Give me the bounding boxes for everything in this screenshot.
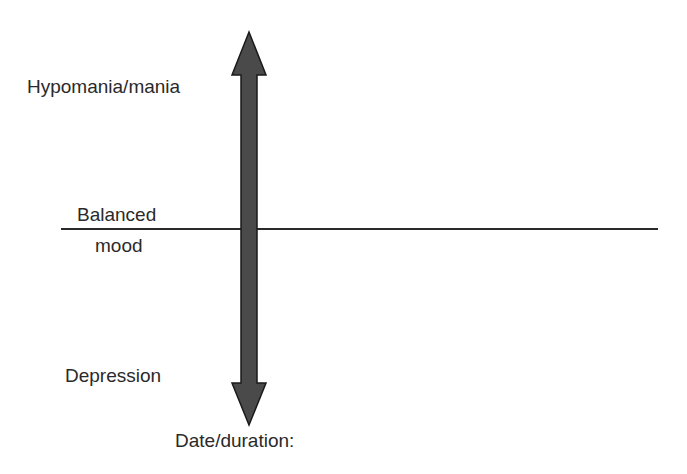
balanced-label: Balanced <box>77 205 156 224</box>
date-duration-label: Date/duration: <box>175 431 294 450</box>
mood-label: mood <box>95 236 143 255</box>
hypomania-mania-label: Hypomania/mania <box>27 77 180 96</box>
depression-label: Depression <box>65 366 161 385</box>
